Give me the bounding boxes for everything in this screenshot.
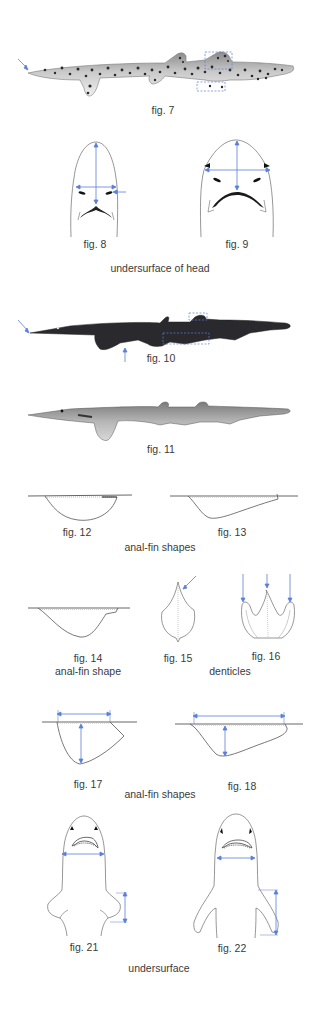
figure-caption: fig. 7	[152, 104, 175, 116]
pale-shark-illustration	[0, 395, 321, 450]
figure-15: fig. 15	[140, 570, 230, 660]
group-caption-anal-fin-single: anal-fin shape	[55, 665, 121, 677]
figure-caption: fig. 22	[218, 942, 247, 954]
figure-16: fig. 16	[230, 570, 321, 660]
figure-caption: fig. 10	[147, 352, 176, 364]
cusp-arrow	[185, 576, 196, 587]
figure-9: fig. 9	[160, 130, 321, 280]
figure-21: fig. 21	[0, 810, 160, 960]
eye	[57, 327, 60, 330]
figure-caption: fig. 17	[74, 778, 103, 790]
figure-22: fig. 22	[160, 810, 321, 960]
figure-caption: fig. 11	[147, 443, 175, 455]
figure-18: fig. 18	[160, 700, 321, 790]
single-cusp-denticle-illustration	[140, 570, 230, 660]
short-pectoral-undersurface-illustration	[0, 810, 160, 960]
figure-caption: fig. 15	[164, 652, 193, 664]
figure-caption: fig. 9	[226, 238, 249, 250]
figure-14: fig. 14	[0, 570, 140, 660]
figure-caption: fig. 14	[74, 652, 103, 664]
three-cusp-denticle-illustration	[230, 570, 321, 660]
shark-body-shape	[30, 315, 290, 349]
figure-caption: fig. 21	[70, 941, 99, 953]
shark-body-shape	[28, 52, 294, 96]
figure-caption: fig. 8	[84, 238, 107, 250]
shark-body-shape	[28, 402, 290, 441]
group-caption-denticles: denticles	[209, 665, 250, 677]
figure-caption: fig. 13	[218, 526, 247, 538]
narrow-head-illustration	[0, 130, 160, 280]
group-caption-head: undersurface of head	[110, 262, 209, 274]
long-pectoral-undersurface-illustration	[160, 810, 321, 960]
broad-head-illustration	[160, 130, 321, 280]
long-base-anal-fin-illustration	[160, 700, 321, 790]
figure-12: fig. 12	[0, 480, 160, 540]
group-caption-anal-fins-2: anal-fin shapes	[124, 788, 195, 800]
figure-caption: fig. 16	[252, 650, 281, 662]
group-caption-anal-fins: anal-fin shapes	[124, 541, 195, 553]
annotation-layer	[18, 59, 28, 70]
figure-caption: fig. 18	[228, 780, 257, 792]
triangular-anal-fin-illustration	[0, 570, 140, 660]
figure-13: fig. 13	[160, 480, 321, 540]
group-caption-undersurface: undersurface	[128, 962, 189, 974]
figure-8: fig. 8	[0, 130, 160, 280]
deep-anal-fin-illustration	[0, 700, 160, 790]
spotted-shark-illustration	[0, 0, 321, 120]
figure-10: fig. 10	[0, 300, 321, 365]
figure-11: fig. 11	[0, 395, 321, 450]
figure-7: fig. 7	[0, 0, 321, 120]
figure-caption: fig. 12	[63, 526, 92, 538]
figure-17: fig. 17	[0, 700, 160, 790]
eye	[61, 410, 64, 413]
